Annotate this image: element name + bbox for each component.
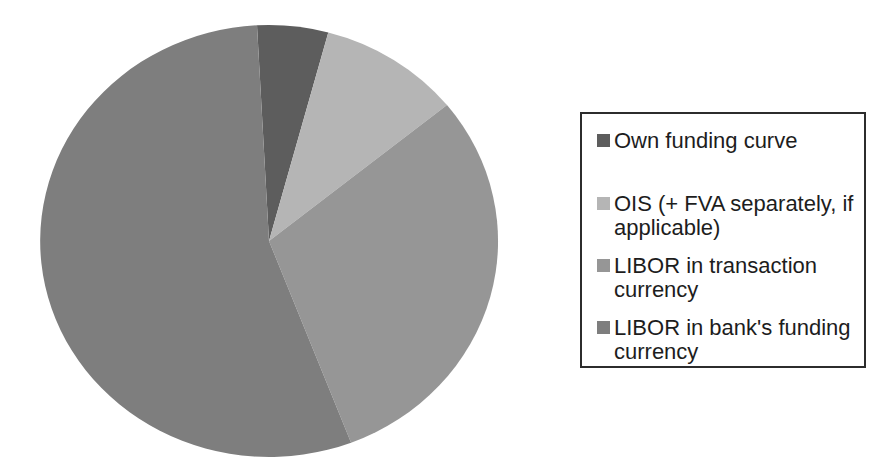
- pie-chart-figure: Own funding curve OIS (+ FVA separately,…: [0, 0, 892, 467]
- legend-swatch-libor-transaction-currency: [597, 259, 610, 272]
- legend-label-line: LIBOR in bank's funding: [614, 316, 851, 340]
- legend-label-line: OIS (+ FVA separately, if: [614, 192, 853, 216]
- legend-item-own-funding-curve: Own funding curve: [597, 129, 862, 192]
- legend-label-line: currency: [614, 340, 851, 364]
- legend-label-line: applicable): [614, 216, 853, 240]
- chart-legend: Own funding curve OIS (+ FVA separately,…: [580, 112, 866, 368]
- legend-label: OIS (+ FVA separately, if applicable): [614, 192, 853, 240]
- legend-label-line: LIBOR in transaction: [614, 254, 817, 278]
- legend-label: Own funding curve: [614, 129, 797, 153]
- legend-label-line: Own funding curve: [614, 129, 797, 153]
- legend-swatch-ois: [597, 197, 610, 210]
- legend-item-ois: OIS (+ FVA separately, if applicable): [597, 192, 862, 254]
- legend-label: LIBOR in transaction currency: [614, 254, 817, 302]
- legend-label-line: currency: [614, 278, 817, 302]
- legend-swatch-libor-banks-funding-currency: [597, 321, 610, 334]
- legend-item-libor-banks-funding-currency: LIBOR in bank's funding currency: [597, 316, 862, 364]
- legend-swatch-own-funding-curve: [597, 134, 610, 147]
- legend-label: LIBOR in bank's funding currency: [614, 316, 851, 364]
- legend-item-libor-transaction-currency: LIBOR in transaction currency: [597, 254, 862, 316]
